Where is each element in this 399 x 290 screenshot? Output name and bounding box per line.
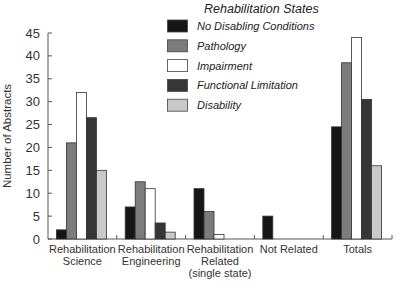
x-category-label: Not Related [260, 243, 318, 255]
y-tick-label: 10 [26, 186, 40, 201]
legend-swatch [168, 20, 188, 32]
legend: Rehabilitation States No Disabling Condi… [168, 2, 319, 111]
x-category-label-line: Engineering [122, 255, 181, 267]
x-category-label-line: Totals [343, 243, 372, 255]
x-category-label: Totals [343, 243, 372, 255]
bar-no-disabling-conditions [125, 207, 135, 239]
bar-no-disabling-conditions [263, 216, 273, 239]
bar-functional-limitation [86, 118, 96, 239]
bar-disability [165, 232, 175, 239]
legend-swatch [168, 99, 188, 111]
legend-label: Disability [197, 99, 243, 111]
y-tick-label: 0 [33, 232, 40, 247]
bar-pathology [66, 143, 76, 239]
bar-no-disabling-conditions [332, 127, 342, 239]
legend-swatch [168, 40, 188, 52]
y-tick-label: 40 [26, 48, 40, 63]
legend-label: Functional Limitation [197, 79, 298, 91]
bar-chart: Rehabilitation States No Disabling Condi… [0, 0, 399, 290]
x-category-label: RehabilitationScience [49, 243, 116, 267]
y-axis-label: Number of Abstracts [1, 84, 13, 188]
bar-disability [96, 170, 106, 239]
bar-functional-limitation [362, 99, 372, 239]
bar-impairment [352, 38, 362, 239]
legend-title: Rehabilitation States [204, 2, 319, 16]
x-category-label-line: Rehabilitation [187, 243, 254, 255]
legend-label: No Disabling Conditions [197, 20, 315, 32]
x-category-label-line: Rehabilitation [118, 243, 185, 255]
y-tick-label: 15 [26, 163, 40, 178]
bar-pathology [342, 63, 352, 239]
bar-functional-limitation [155, 223, 165, 239]
y-tick-label: 45 [26, 26, 40, 41]
legend-swatch [168, 79, 188, 91]
y-tick-label: 30 [26, 94, 40, 109]
x-category-label-line: (single state) [189, 267, 252, 279]
x-category-label-line: Not Related [260, 243, 318, 255]
bar-impairment [76, 93, 86, 239]
bar-no-disabling-conditions [194, 189, 204, 239]
y-tick-label: 20 [26, 140, 40, 155]
bar-pathology [135, 182, 145, 239]
bar-impairment [145, 189, 155, 239]
bar-no-disabling-conditions [56, 230, 66, 239]
legend-label: Impairment [197, 60, 253, 72]
legend-label: Pathology [197, 40, 247, 52]
bar-impairment [214, 234, 224, 239]
y-tick-label: 25 [26, 117, 40, 132]
legend-swatch [168, 60, 188, 72]
y-axis: 051015202530354045 [26, 26, 52, 247]
x-category-label-line: Related [201, 255, 239, 267]
x-category-label: RehabilitationEngineering [118, 243, 185, 267]
y-tick-label: 35 [26, 71, 40, 86]
x-category-label-line: Science [63, 255, 102, 267]
y-tick-label: 5 [33, 209, 40, 224]
x-axis: RehabilitationScienceRehabilitationEngin… [48, 235, 392, 279]
bar-pathology [204, 212, 214, 239]
x-category-label-line: Rehabilitation [49, 243, 116, 255]
bar-disability [372, 166, 382, 239]
x-category-label: RehabilitationRelated(single state) [187, 243, 254, 279]
